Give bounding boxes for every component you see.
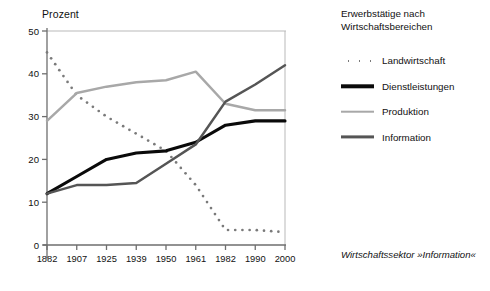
y-tick-label: 0 [34,240,39,251]
legend-swatch-light-gray-icon [341,106,374,118]
legend-swatch-thick-black-icon [341,80,374,92]
x-tick-label: 1961 [185,254,206,264]
series-dot [175,161,178,164]
legend-label-landwirtschaft: Landwirtschaft [382,55,445,66]
series-dot [103,114,106,117]
series-dot [234,229,237,232]
x-tick-label: 1939 [126,254,147,264]
series-dot [116,121,119,124]
series-dot [184,172,187,175]
series-dot [66,81,69,84]
series-dot [109,118,112,121]
series-dot [92,105,95,108]
series-dot [141,136,144,139]
series-dot [206,201,209,204]
legend-item-information: Information [341,125,490,151]
series-dot [241,229,244,232]
series-dot [263,229,266,232]
legend-item-produktion: Produktion [341,99,490,125]
legend-title-line-2: Wirtschaftsbereichen [341,21,432,34]
series-dot [128,128,131,131]
series-line-dienstleistungen [47,121,285,194]
series-dot [147,139,150,142]
series-dot [80,97,83,100]
chart-figure: Prozent Erwerbstätige nach Wirtschaftsbe… [0,0,490,291]
y-axis-label: Prozent [42,8,79,20]
series-dot [218,219,221,222]
series-dot [248,229,251,232]
series-dot [179,167,182,170]
chart-caption: Wirtschaftssektor »Information« [341,249,476,260]
series-dot [159,146,162,149]
series-layer [46,51,285,233]
legend-title: Erwerbstätige nach Wirtschaftsbereichen [341,8,432,33]
legend-label-dienstleistungen: Dienstleistungen [382,81,454,92]
axis-layer: 0102030405018821907192519391950196119821… [28,26,295,264]
x-tick-label: 1950 [156,254,177,264]
series-dot [70,87,73,90]
series-dot [277,230,280,233]
series-dot [86,101,89,104]
legend-item-dienstleistungen: Dienstleistungen [341,74,490,100]
legend-label-produktion: Produktion [382,106,429,117]
x-tick-label: 1925 [96,254,117,264]
chart-legend: Landwirtschaft Dienstleistungen Produkti… [341,48,490,150]
legend-label-information: Information [382,132,431,143]
series-dot [227,229,230,232]
legend-swatch-dark-gray-icon [341,131,374,143]
series-dot [255,229,258,232]
series-dot [210,207,213,210]
series-dot [202,195,205,198]
x-tick-label: 1990 [245,254,266,264]
series-dot [50,57,53,60]
y-tick-label: 10 [28,197,39,208]
legend-item-landwirtschaft: Landwirtschaft [341,48,490,74]
legend-swatch-dotted-icon [341,55,374,67]
series-dot [97,110,100,113]
x-tick-label: 1907 [66,254,87,264]
y-tick-label: 20 [28,154,39,165]
series-dot [170,156,173,159]
series-line-produktion [47,72,285,121]
series-dot [134,132,137,135]
series-dot [214,213,217,216]
series-dot [198,189,201,192]
series-dot [58,69,61,72]
series-dots-landwirtschaft [46,51,280,233]
y-tick-label: 40 [28,68,39,79]
series-dot [194,183,197,186]
series-dot [270,230,273,233]
x-tick-label: 1882 [37,254,58,264]
series-dot [62,75,65,78]
series-dot [222,225,225,228]
series-dot [189,177,192,180]
series-dot [153,143,156,146]
series-dot [54,63,57,66]
legend-title-line-1: Erwerbstätige nach [341,8,432,21]
y-tick-label: 30 [28,111,39,122]
series-dot [46,51,49,54]
series-dot [122,125,125,128]
x-tick-label: 1982 [215,254,236,264]
x-tick-label: 2000 [275,254,296,264]
y-tick-label: 50 [28,26,39,37]
